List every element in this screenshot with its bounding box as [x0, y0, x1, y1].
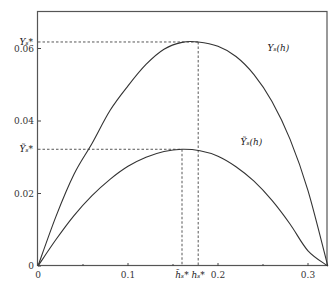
y-guide-label: Ỹₛ*	[20, 143, 34, 154]
x-guide-label: hₛ*	[192, 270, 206, 280]
chart: Yₛ*hₛ*Ỹₛ*h̃ₛ*00.10.20.300.020.040.06Yₛ(h…	[0, 0, 336, 284]
series-line-Y-s	[38, 41, 328, 266]
x-tick-label: 0	[35, 270, 41, 280]
x-tick-label: 0.2	[211, 270, 225, 280]
ticks	[38, 49, 308, 267]
x-tick-label: 0.1	[121, 270, 135, 280]
series-line-Y-tilde-s	[38, 149, 328, 266]
y-tick-label: 0	[28, 261, 34, 271]
curve-label-Y-s: Yₛ(h)	[268, 43, 290, 53]
x-tick-label: 0.3	[301, 270, 316, 280]
curve-label-Y-tilde-s: Ỹₛ(h)	[241, 136, 263, 147]
y-tick-label: 0.02	[14, 189, 34, 199]
x-guide-label: h̃ₛ*	[175, 269, 189, 280]
curves	[38, 41, 328, 266]
y-tick-label: 0.04	[14, 116, 34, 126]
labels: Yₛ*hₛ*Ỹₛ*h̃ₛ*00.10.20.300.020.040.06Yₛ(h…	[14, 37, 315, 280]
guide-lines	[38, 42, 198, 266]
y-tick-label: 0.06	[14, 44, 34, 54]
